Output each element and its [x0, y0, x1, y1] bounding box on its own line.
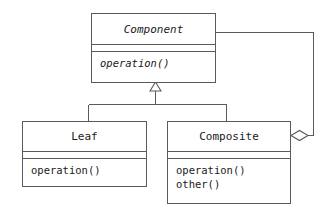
- aggregation-diamond-icon: [291, 131, 308, 141]
- class-attributes-compartment-composite: [168, 152, 290, 159]
- generalization-triangle-icon: [150, 82, 161, 91]
- class-name-component: Component: [124, 23, 184, 36]
- class-box-leaf[interactable]: Leaf operation(): [22, 121, 147, 187]
- class-box-composite[interactable]: Composite operation() other(): [167, 121, 291, 204]
- class-attributes-compartment-leaf: [23, 152, 146, 159]
- operation-item: operation(): [100, 56, 207, 70]
- class-box-component[interactable]: Component operation(): [91, 13, 216, 83]
- operation-item: operation(): [176, 163, 282, 177]
- class-name-compartment-composite: Composite: [168, 122, 290, 152]
- class-name-leaf: Leaf: [71, 130, 98, 143]
- uml-class-diagram: Component operation() Leaf operation() C…: [0, 0, 334, 216]
- class-attributes-compartment-component: [92, 45, 215, 52]
- operation-item: operation(): [31, 163, 138, 177]
- class-operations-compartment-composite: operation() other(): [168, 159, 290, 203]
- class-operations-compartment-component: operation(): [92, 52, 215, 82]
- operation-item: other(): [176, 177, 282, 191]
- class-name-compartment-leaf: Leaf: [23, 122, 146, 152]
- class-name-compartment-component: Component: [92, 14, 215, 45]
- class-operations-compartment-leaf: operation(): [23, 159, 146, 186]
- class-name-composite: Composite: [199, 130, 259, 143]
